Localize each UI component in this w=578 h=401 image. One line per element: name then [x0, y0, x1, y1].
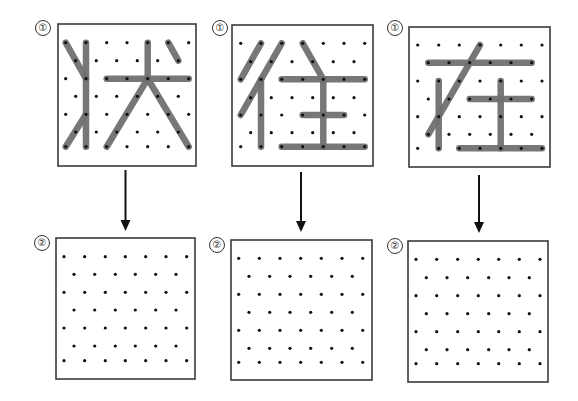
- panel-3-top-peg-dot: [458, 43, 461, 46]
- panel-2-bottom-peg-dot: [247, 311, 250, 314]
- panel-2-bottom-peg-dot: [361, 361, 364, 364]
- panel-3-bottom-peg-dot: [507, 276, 510, 279]
- panel-2-bottom-peg-dot: [320, 257, 323, 260]
- panel-1-bottom-peg-dot: [124, 326, 127, 329]
- panel-1-bottom-peg-dot: [164, 255, 167, 258]
- panel-1-bottom-peg-dot: [134, 273, 137, 276]
- panel-3-bottom-peg-dot: [538, 258, 541, 261]
- panel-1-bottom-peg-dot: [104, 326, 107, 329]
- panel-3-bottom-peg-dot: [445, 276, 448, 279]
- panel-1-top-peg-dot: [115, 130, 118, 133]
- panel-2-bottom-peg-dot: [320, 293, 323, 296]
- panel-2-bottom-peg-dot: [299, 329, 302, 332]
- panel-1-arrow-down-icon: [121, 220, 131, 231]
- panel-2-bottom-peg-dot: [340, 329, 343, 332]
- panel-1-bottom-peg-dot: [72, 344, 75, 347]
- panel-3-bottom-peg-dot: [425, 276, 428, 279]
- panel-3-top-peg-dot: [437, 43, 440, 46]
- panel-2-top-peg-dot: [280, 145, 283, 148]
- panel-2-top-peg-dot: [259, 42, 262, 45]
- panel-2-bottom-peg-dot: [258, 257, 261, 260]
- step-label-2-panel-1: ②: [34, 235, 50, 251]
- panel-3-top-peg-dot: [499, 147, 502, 150]
- panel-3-bottom-peg-dot: [518, 294, 521, 297]
- panel-3-top-peg-dot: [447, 97, 450, 100]
- panel-3-top-peg-dot: [416, 115, 419, 118]
- panel-3-top-peg-dot: [447, 61, 450, 64]
- panel-2-bottom-peg-dot: [340, 257, 343, 260]
- panel-3-top-peg-dot: [530, 61, 533, 64]
- panel-3-bottom-peg-dot: [518, 258, 521, 261]
- panel-2-top-peg-dot: [239, 113, 242, 116]
- panel-2-top-peg-dot: [280, 78, 283, 81]
- panel-2-top-peg-dot: [280, 113, 283, 116]
- panel-3-bottom-peg-dot: [456, 294, 459, 297]
- panel-1-bottom-peg-dot: [83, 326, 86, 329]
- panel-3-top-peg-dot: [458, 147, 461, 150]
- panel-1-top-peg-dot: [167, 41, 170, 44]
- panel-2-bottom-peg-dot: [299, 293, 302, 296]
- panel-2-top-peg-dot: [342, 145, 345, 148]
- panel-2-top-peg-dot: [290, 131, 293, 134]
- panel-2-bottom-peg-dot: [299, 257, 302, 260]
- panel-1-bottom-peg-dot: [185, 255, 188, 258]
- panel-3-top-peg-dot: [499, 79, 502, 82]
- panel-1-bottom-peg-dot: [144, 255, 147, 258]
- panel-1-bottom-peg-dot: [144, 359, 147, 362]
- panel-3-top-peg-dot: [489, 97, 492, 100]
- panel-3-top-peg-dot: [416, 43, 419, 46]
- panel-3-bottom-peg-dot: [466, 348, 469, 351]
- panel-3-bottom-peg-dot: [507, 312, 510, 315]
- panel-2-arrow-down-icon: [296, 221, 306, 232]
- panel-2-bottom-peg-dot: [361, 329, 364, 332]
- step-label-1-panel-1: ①: [35, 20, 51, 36]
- panel-3-top-peg-dot: [468, 133, 471, 136]
- panel-3-top-peg-dot: [509, 97, 512, 100]
- panel-1-top-peg-dot: [136, 59, 139, 62]
- panel-3-top-peg-dot: [489, 133, 492, 136]
- panel-2-top-peg-dot: [239, 78, 242, 81]
- panel-2-bottom-peg-dot: [309, 275, 312, 278]
- panel-1-top-peg-dot: [136, 130, 139, 133]
- panel-3-bottom-peg-dot: [435, 330, 438, 333]
- panel-1-top-peg-dot: [125, 77, 128, 80]
- panel-3-top-peg-dot: [540, 79, 543, 82]
- panel-1-top-peg-dot: [125, 113, 128, 116]
- panel-1-bottom-board-frame: [56, 238, 195, 379]
- panel-1-bottom-peg-dot: [83, 359, 86, 362]
- panel-2-top-peg-dot: [332, 96, 335, 99]
- panel-1-top-peg-dot: [64, 145, 67, 148]
- panel-2-bottom-peg-dot: [268, 347, 271, 350]
- panel-3-bottom-peg-dot: [445, 348, 448, 351]
- panel-1-bottom-peg-dot: [185, 326, 188, 329]
- panel-3-bottom-peg-dot: [538, 362, 541, 365]
- panel-3-top-peg-dot: [437, 79, 440, 82]
- panel-1-top-peg-dot: [187, 113, 190, 116]
- panel-2-top-peg-dot: [332, 131, 335, 134]
- panel-2-top-peg-dot: [249, 60, 252, 63]
- panel-1-top-peg-dot: [125, 41, 128, 44]
- exercise-diagram: ① ② ① ② ① ②: [0, 0, 578, 401]
- panel-3-bottom-peg-dot: [497, 258, 500, 261]
- panel-2-bottom-peg-dot: [351, 275, 354, 278]
- panel-2-bottom-peg-dot: [258, 293, 261, 296]
- panel-2-bottom-peg-dot: [330, 275, 333, 278]
- panel-1-bottom-peg-dot: [93, 308, 96, 311]
- step-label-2-panel-3: ②: [387, 238, 403, 254]
- panel-1-bottom-peg-dot: [62, 291, 65, 294]
- panel-1-bottom-peg-dot: [154, 273, 157, 276]
- panel-1-bottom-peg-dot: [134, 344, 137, 347]
- diagram-canvas: [0, 0, 578, 401]
- panel-3-top-peg-dot: [509, 133, 512, 136]
- panel-1-bottom-peg-dot: [134, 308, 137, 311]
- panel-2-top-peg-dot: [249, 96, 252, 99]
- panel-1-bottom-peg-dot: [144, 291, 147, 294]
- panel-3-top-peg-dot: [478, 115, 481, 118]
- panel-2-bottom-peg-dot: [351, 347, 354, 350]
- panel-2-bottom-peg-dot: [237, 257, 240, 260]
- panel-3-bottom-peg-dot: [487, 348, 490, 351]
- panel-3-top-peg-dot: [427, 133, 430, 136]
- panel-1-top-peg-dot: [84, 145, 87, 148]
- panel-2-top-peg-dot: [239, 42, 242, 45]
- panel-2-bottom-peg-dot: [278, 257, 281, 260]
